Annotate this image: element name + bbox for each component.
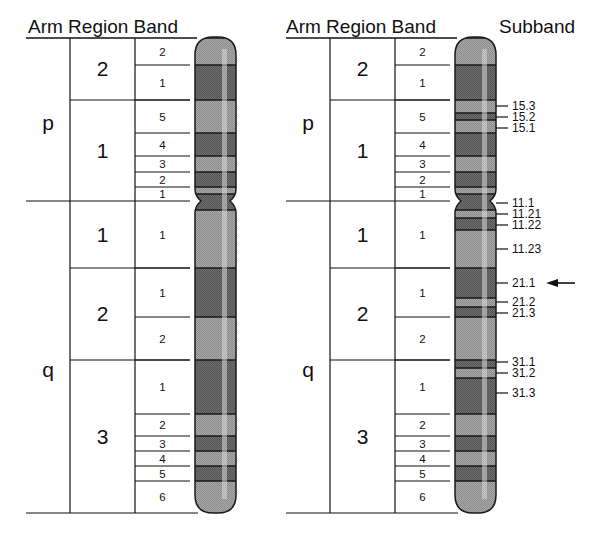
subband-label: 31.2	[512, 366, 536, 380]
band-label: 4	[159, 139, 166, 151]
band-label: 2	[159, 46, 165, 58]
band-label: 1	[159, 77, 165, 89]
band-label: 3	[159, 158, 165, 170]
band-label: 3	[419, 438, 425, 450]
region-label: 1	[97, 139, 109, 162]
left-arrow-icon	[546, 279, 575, 287]
region-label: 1	[357, 139, 369, 162]
right-panel-band-table: Arm Region Band Subband 2112321543211121…	[286, 16, 575, 513]
subband-labels: 15.315.215.111.111.2111.2211.2321.121.22…	[496, 99, 541, 400]
left-labels: 211232154321112123456pq	[42, 46, 166, 504]
band-label: 2	[159, 333, 165, 345]
band-label: 5	[159, 468, 165, 480]
band-label: 5	[419, 111, 425, 123]
band-label: 3	[419, 158, 425, 170]
region-label: 3	[97, 425, 109, 448]
arm-label: p	[42, 111, 54, 134]
arm-label: p	[302, 111, 314, 134]
band-label: 1	[419, 77, 425, 89]
region-label: 2	[97, 57, 109, 80]
band-label: 1	[159, 188, 165, 200]
band-label: 2	[419, 174, 425, 186]
band-label: 1	[159, 229, 165, 241]
right-labels: 211232154321112123456pq	[302, 46, 426, 504]
band-label: 1	[419, 381, 425, 393]
subband-label: 11.22	[512, 218, 541, 232]
chromatid-highlight	[482, 49, 487, 499]
band-label: 2	[419, 46, 425, 58]
arm-label: q	[42, 358, 54, 381]
band-label: 2	[419, 333, 425, 345]
band-label: 4	[419, 453, 426, 465]
ideogram-canvas: Arm Region Band 211232154321112123456pq …	[0, 0, 591, 534]
arm-label: q	[302, 358, 314, 381]
region-label: 2	[357, 302, 369, 325]
left-header: Arm Region Band	[28, 16, 178, 37]
right-header: Arm Region Band	[286, 16, 436, 37]
chromosome-ideogram-figure: Arm Region Band 211232154321112123456pq …	[0, 0, 591, 534]
right-chromosome	[455, 37, 496, 513]
band-label: 6	[159, 491, 165, 503]
subband-label: 21.1	[512, 276, 536, 290]
left-grid-lines	[26, 38, 198, 513]
subband-header: Subband	[499, 16, 575, 37]
subband-label: 11.23	[512, 242, 541, 256]
region-label: 2	[357, 57, 369, 80]
region-label: 1	[97, 223, 109, 246]
band-label: 1	[419, 229, 425, 241]
right-grid-lines	[286, 38, 458, 513]
region-label: 3	[357, 425, 369, 448]
band-label: 5	[159, 111, 165, 123]
subband-label: 31.3	[512, 386, 536, 400]
band-label: 1	[159, 381, 165, 393]
band-label: 5	[419, 468, 425, 480]
band-label: 1	[419, 188, 425, 200]
subband-label: 15.1	[512, 121, 536, 135]
left-panel-band-table: Arm Region Band 211232154321112123456pq	[26, 16, 236, 513]
region-label: 2	[97, 302, 109, 325]
band-label: 4	[159, 453, 166, 465]
band-label: 4	[419, 139, 426, 151]
region-label: 1	[357, 223, 369, 246]
band-label: 2	[159, 174, 165, 186]
chromatid-highlight	[222, 49, 227, 499]
band-label: 6	[419, 491, 425, 503]
band-label: 3	[159, 438, 165, 450]
band-label: 2	[419, 419, 425, 431]
band-label: 1	[159, 287, 165, 299]
left-chromosome	[195, 37, 236, 513]
band-label: 1	[419, 287, 425, 299]
subband-label: 21.3	[512, 306, 536, 320]
band-label: 2	[159, 419, 165, 431]
